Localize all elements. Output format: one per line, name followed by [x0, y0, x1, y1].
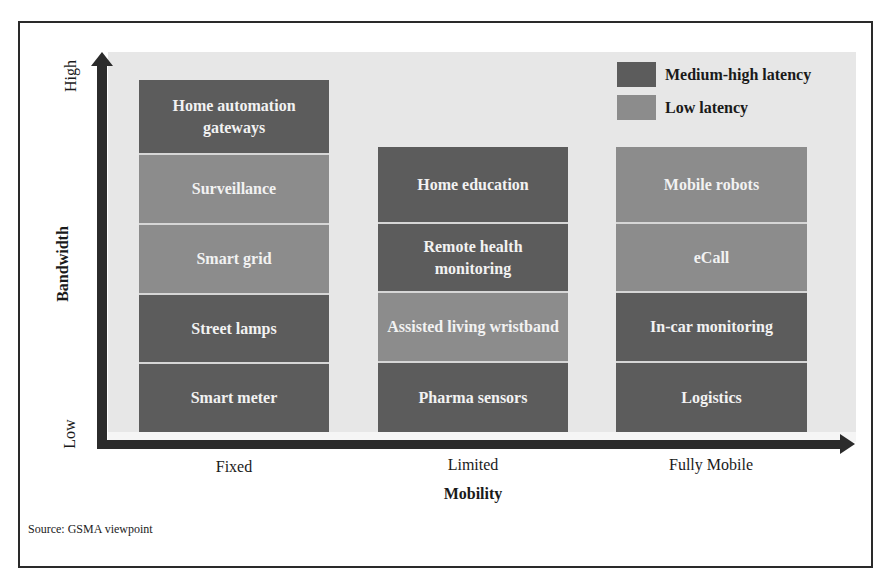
y-axis-low-label: Low [60, 415, 80, 453]
legend-swatch-light [617, 95, 656, 120]
x-axis-line [97, 440, 842, 449]
cell-smart-meter: Smart meter [139, 364, 329, 432]
y-axis-line [97, 64, 107, 449]
cell-surveillance: Surveillance [139, 155, 329, 225]
column-fully-mobile: Mobile robots eCall In-car monitoring Lo… [616, 147, 807, 432]
y-axis-high-label: High [61, 54, 81, 98]
x-axis-label-fixed: Fixed [184, 458, 284, 476]
column-limited: Home education Remote health monitoring … [378, 147, 568, 432]
column-fixed: Home automation gateways Surveillance Sm… [139, 80, 329, 432]
legend-item-medium-high-latency: Medium-high latency [617, 58, 811, 91]
cell-in-car-monitoring: In-car monitoring [616, 293, 807, 363]
cell-street-lamps: Street lamps [139, 295, 329, 364]
cell-assisted-living-wristband: Assisted living wristband [378, 293, 568, 363]
cell-logistics: Logistics [616, 363, 807, 432]
x-axis-label-fully-mobile: Fully Mobile [651, 456, 771, 474]
legend-label: Low latency [665, 99, 748, 117]
x-axis-arrow-icon [840, 434, 855, 454]
cell-ecall: eCall [616, 224, 807, 293]
cell-remote-health-monitoring: Remote health monitoring [378, 224, 568, 293]
source-note: Source: GSMA viewpoint [28, 522, 153, 537]
y-axis-title: Bandwidth [53, 222, 73, 306]
legend-item-low-latency: Low latency [617, 91, 811, 124]
legend-label: Medium-high latency [665, 66, 811, 84]
x-axis-title: Mobility [423, 485, 523, 503]
cell-mobile-robots: Mobile robots [616, 147, 807, 224]
cell-home-education: Home education [378, 147, 568, 224]
x-axis-label-limited: Limited [423, 456, 523, 474]
cell-pharma-sensors: Pharma sensors [378, 363, 568, 432]
legend-swatch-dark [617, 62, 656, 87]
legend: Medium-high latency Low latency [617, 58, 811, 124]
cell-home-automation-gateways: Home automation gateways [139, 80, 329, 155]
y-axis-arrow-icon [91, 52, 113, 66]
cell-smart-grid: Smart grid [139, 225, 329, 295]
